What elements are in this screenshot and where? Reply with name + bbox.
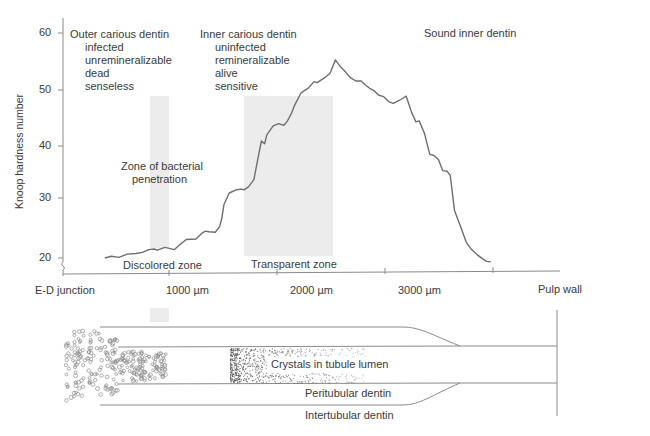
y-tick-50: 50 (39, 83, 51, 95)
bacterial-zone-label-2: penetration (132, 173, 187, 186)
x-tick-ed-junction: E-D junction (35, 284, 95, 296)
bacterial-zone-label-1: Zone of bacterial (121, 160, 203, 173)
inner-carious-dentin-annotation: Inner carious dentin uninfected reminera… (200, 28, 297, 93)
bacterial-zone-band-lower (150, 308, 169, 322)
y-tick-40: 40 (39, 139, 51, 151)
outer-carious-dentin-annotation: Outer carious dentin infected unreminera… (70, 28, 169, 93)
intertubular-dentin-label: Intertubular dentin (305, 409, 394, 422)
outer-line-3: dead (85, 67, 184, 80)
outer-title: Outer carious dentin (70, 28, 169, 41)
inner-line-1: uninfected (215, 41, 312, 54)
outer-line-4: senseless (85, 80, 184, 93)
outer-line-2: unremineralizable (85, 54, 184, 67)
y-ticks (58, 33, 63, 258)
inner-line-4: sensitive (215, 80, 312, 93)
inner-line-3: alive (215, 67, 312, 80)
x-tick-1000: 1000 µm (166, 284, 209, 296)
bacteria-cluster (64, 329, 167, 402)
y-tick-20: 20 (39, 251, 51, 263)
y-tick-30: 30 (39, 191, 51, 203)
y-tick-60: 60 (39, 26, 51, 38)
discolored-zone-label: Discolored zone (123, 259, 202, 272)
transparent-zone-label: Transparent zone (251, 258, 337, 271)
x-tick-3000: 3000 µm (398, 284, 441, 296)
outer-line-1: infected (85, 41, 184, 54)
sound-inner-dentin-label: Sound inner dentin (424, 27, 516, 40)
y-axis-label: Knoop hardness number (13, 94, 25, 209)
crystals-label: Crystals in tubule lumen (269, 358, 390, 371)
y-axis-break (62, 262, 65, 270)
inner-title: Inner carious dentin (200, 28, 297, 41)
x-tick-2000: 2000 µm (290, 284, 333, 296)
inner-line-2: remineralizable (215, 54, 312, 67)
peritubular-dentin-label: Peritubular dentin (305, 387, 391, 400)
x-tick-pulp-wall: Pulp wall (538, 283, 582, 295)
